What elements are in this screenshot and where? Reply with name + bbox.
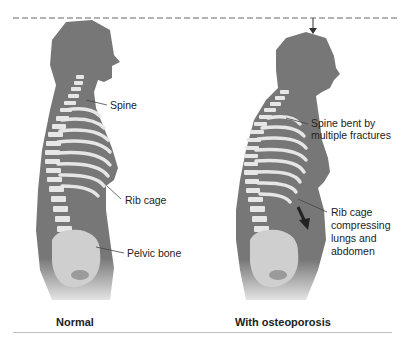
label-rib-compress-2: compressing — [331, 219, 391, 231]
label-rib-cage: Rib cage — [125, 194, 166, 206]
label-rib-compress-1: Rib cage — [331, 206, 372, 218]
label-rib-compress-3: lungs and — [331, 232, 377, 244]
osteoporosis-pelvic-bone — [250, 230, 298, 287]
label-rib-compress-4: abdomen — [331, 245, 375, 257]
height-loss-arrowhead — [309, 28, 317, 34]
label-pelvic-bone: Pelvic bone — [127, 247, 181, 259]
label-spine-bent-1: Spine bent by — [311, 117, 375, 129]
bottom-divider — [13, 332, 392, 333]
caption-normal: Normal — [56, 316, 94, 328]
caption-osteoporosis: With osteoporosis — [235, 316, 331, 328]
label-spine-bent-2: multiple fractures — [311, 129, 391, 141]
figure-svg — [0, 0, 411, 355]
osteoporosis-diagram: Spine Rib cage Pelvic bone Spine bent by… — [0, 0, 411, 355]
normal-pelvic-bone — [52, 230, 100, 287]
label-spine: Spine — [110, 99, 137, 111]
